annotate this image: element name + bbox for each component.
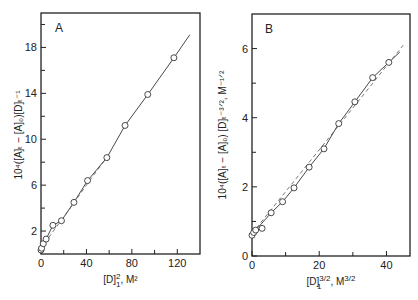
x-tick-label: 80 bbox=[126, 257, 138, 269]
x-tick-label: 120 bbox=[168, 257, 186, 269]
data-point-marker bbox=[280, 199, 286, 205]
data-point-marker bbox=[370, 75, 376, 81]
y-tick-label: 6 bbox=[242, 43, 248, 55]
y-tick-label: 6 bbox=[31, 179, 37, 191]
x-tick-label: 0 bbox=[249, 259, 255, 271]
data-point-marker bbox=[306, 164, 312, 170]
y-tick-label: 10 bbox=[25, 133, 37, 145]
x-tick-label: 20 bbox=[313, 259, 325, 271]
data-point-marker bbox=[145, 91, 151, 97]
y-axis-label: 10⁴([A]ₜ − [A]₀) [D]ₜ⁻³ᐟ², M⁻¹ᐟ² bbox=[217, 70, 228, 200]
y-tick-label: 18 bbox=[25, 41, 37, 53]
data-point-marker bbox=[171, 55, 177, 61]
data-point-marker bbox=[71, 199, 77, 205]
panel-label: A bbox=[55, 21, 63, 35]
panel-b-chart: 020400246B[D]3/21, M3/210⁴([A]ₜ − [A]₀) … bbox=[217, 14, 410, 291]
data-point-marker bbox=[268, 210, 274, 216]
y-axis-label: 10⁴([A]ₜ − [A]₀)[D]ₜ⁻¹ bbox=[13, 90, 24, 180]
x-tick-label: 40 bbox=[80, 257, 92, 269]
data-point-marker bbox=[104, 155, 110, 161]
y-tick-label: 4 bbox=[242, 112, 248, 124]
y-tick-label: 14 bbox=[25, 87, 37, 99]
data-point-marker bbox=[85, 178, 91, 184]
x-axis-label: [D]21, M² bbox=[103, 272, 138, 289]
figure: 0408012026101418A[D]21, M²10⁴([A]ₜ − [A]… bbox=[0, 0, 418, 300]
y-tick-label: 0 bbox=[242, 250, 248, 262]
data-point-marker bbox=[259, 225, 265, 231]
panel-a-chart: 0408012026101418A[D]21, M²10⁴([A]ₜ − [A]… bbox=[13, 13, 200, 289]
y-tick-label: 2 bbox=[31, 225, 37, 237]
data-point-marker bbox=[352, 99, 358, 105]
dashed-fit-line bbox=[252, 45, 403, 233]
data-point-marker bbox=[291, 185, 297, 191]
data-point-marker bbox=[253, 227, 259, 233]
data-point-marker bbox=[386, 59, 392, 65]
data-point-marker bbox=[43, 236, 49, 242]
x-tick-label: 0 bbox=[38, 257, 44, 269]
solid-fit-line bbox=[252, 52, 400, 235]
panel-label: B bbox=[265, 22, 273, 36]
data-point-marker bbox=[50, 222, 56, 228]
data-point-marker bbox=[122, 122, 128, 128]
x-tick-label: 40 bbox=[380, 259, 392, 271]
data-point-marker bbox=[336, 121, 342, 127]
y-tick-label: 2 bbox=[242, 181, 248, 193]
data-point-marker bbox=[58, 218, 64, 224]
x-axis-label: [D]3/21, M3/2 bbox=[307, 274, 356, 291]
data-point-marker bbox=[321, 146, 327, 152]
